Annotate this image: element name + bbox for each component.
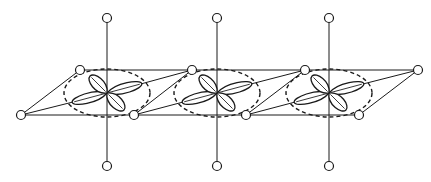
atom-circle xyxy=(355,111,364,120)
d-orbitals xyxy=(64,69,372,117)
atom-circle xyxy=(130,111,139,120)
bond-line xyxy=(359,70,418,85)
atom-circle xyxy=(414,66,423,75)
orbital-lattice-diagram xyxy=(0,0,431,182)
bond-line xyxy=(246,101,299,115)
atom-circle xyxy=(76,66,85,75)
atom-circle xyxy=(301,66,310,75)
bond-line xyxy=(134,70,192,115)
atom-circle xyxy=(242,111,251,120)
atom-circle xyxy=(17,111,26,120)
bond-line xyxy=(359,70,418,115)
bond-line xyxy=(134,101,187,115)
atom-circle xyxy=(213,162,222,171)
bond-line xyxy=(21,70,80,115)
atom-circle xyxy=(325,162,334,171)
atom-circle xyxy=(188,66,197,75)
atom-circle xyxy=(213,14,222,23)
atom-circle xyxy=(103,14,112,23)
atom-circle xyxy=(103,162,112,171)
atom-circle xyxy=(325,14,334,23)
